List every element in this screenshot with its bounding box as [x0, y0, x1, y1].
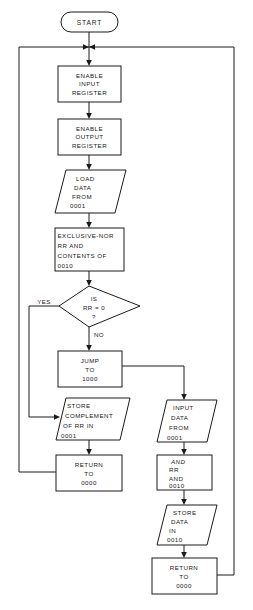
load-data-line1: LOAD	[76, 175, 95, 182]
jump-line3: 1000	[82, 375, 98, 382]
and-line3: AND	[169, 475, 183, 482]
store-complement-line1: STORE	[67, 402, 90, 409]
store-complement-line3: OF RR IN	[63, 422, 94, 429]
flowchart-canvas: START ENABLE INPUT REGISTER ENABLE OUTPU…	[0, 0, 253, 610]
and-line1: AND	[170, 458, 185, 465]
node-enable-output-register: ENABLE OUTPUT REGISTER	[58, 119, 121, 155]
jump-line2: TO	[85, 366, 94, 373]
store-data-line3: IN	[169, 527, 176, 534]
return-right-line1: RETURN	[170, 564, 198, 571]
decision-line3: ?	[92, 313, 96, 320]
input-data-line1: INPUT	[173, 404, 194, 411]
node-and-operation: AND RR AND 0010	[157, 455, 212, 490]
arrow-into-enable-output	[86, 113, 92, 119]
exclusive-nor-line2: RR AND	[58, 242, 84, 249]
arrow-right-rail-into-junction	[89, 44, 95, 50]
arrow-into-store-data	[181, 499, 187, 505]
edge-label-yes: YES	[37, 298, 51, 305]
enable-input-line1: ENABLE	[76, 72, 103, 79]
and-line4: 0010	[169, 482, 185, 489]
load-data-line3: FROM	[72, 193, 92, 200]
exclusive-nor-line1-nor: NOR	[99, 232, 114, 239]
arrow-into-jump	[86, 345, 92, 351]
store-complement-line4: 0001	[61, 432, 77, 439]
node-enable-input-register: ENABLE INPUT REGISTER	[58, 66, 121, 102]
return-right-line3: 0000	[176, 582, 192, 589]
input-data-line4: 0001	[167, 434, 183, 441]
node-load-data: LOAD DATA FROM 0001	[55, 170, 126, 213]
arrow-into-return-left	[86, 449, 92, 455]
node-input-data: INPUT DATA FROM 0001	[157, 400, 217, 442]
exclusive-nor-line4: 0010	[58, 262, 74, 269]
edge-label-no: NO	[94, 331, 104, 338]
load-data-line4: 0001	[70, 202, 86, 209]
arrow-into-return-right	[181, 552, 187, 558]
arrow-into-store-complement	[54, 414, 60, 420]
node-store-data: STORE DATA IN 0010	[157, 505, 217, 545]
arrow-into-exclusive-nor	[86, 222, 92, 228]
and-line2: RR	[169, 466, 179, 473]
node-decision-rr-zero: IS RR = 0 ?	[59, 286, 140, 327]
arrow-into-enable-input	[86, 60, 92, 66]
node-exclusive-nor: EXCLUSIVE-NOR RR AND CONTENTS OF 0010	[55, 228, 124, 271]
node-store-complement: STORE COMPLEMENT OF RR IN 0001	[56, 398, 130, 440]
store-data-line2: DATA	[171, 518, 189, 525]
exclusive-nor-line1: EXCLUSIVE-NOR	[58, 232, 114, 239]
return-left-line2: TO	[84, 470, 93, 477]
return-left-line3: 0000	[81, 479, 97, 486]
enable-input-line3: REGISTER	[72, 89, 107, 96]
input-data-line2: DATA	[171, 414, 189, 421]
exclusive-nor-line3: CONTENTS OF	[58, 252, 107, 259]
store-data-line4: 0010	[167, 536, 183, 543]
node-start: START	[61, 12, 118, 32]
decision-line1: IS	[91, 295, 98, 302]
store-complement-line2: COMPLEMENT	[65, 412, 113, 419]
enable-output-line2: OUTPUT	[75, 133, 103, 140]
return-right-line2: TO	[179, 573, 188, 580]
arrow-into-load-data	[86, 164, 92, 170]
arrow-into-and	[181, 449, 187, 455]
flowchart-diagram: START ENABLE INPUT REGISTER ENABLE OUTPU…	[0, 0, 253, 610]
arrow-into-input-data	[181, 394, 187, 400]
enable-output-line1: ENABLE	[76, 125, 103, 132]
exclusive-nor-line1-prefix: EXCLUSIVE-	[58, 232, 99, 239]
node-return-right: RETURN TO 0000	[152, 558, 217, 594]
enable-input-line2: INPUT	[79, 80, 100, 87]
node-jump: JUMP TO 1000	[58, 351, 122, 387]
arrow-left-rail-into-junction	[83, 44, 89, 50]
return-left-line1: RETURN	[75, 461, 103, 468]
node-return-left: RETURN TO 0000	[56, 455, 122, 491]
store-data-line1: STORE	[173, 509, 196, 516]
input-data-line3: FROM	[169, 424, 189, 431]
arrow-into-decision	[86, 280, 92, 286]
start-label: START	[77, 19, 103, 26]
decision-line2: RR = 0	[83, 304, 105, 311]
enable-output-line3: REGISTER	[72, 142, 107, 149]
jump-line1: JUMP	[81, 357, 100, 364]
load-data-line2: DATA	[74, 184, 92, 191]
